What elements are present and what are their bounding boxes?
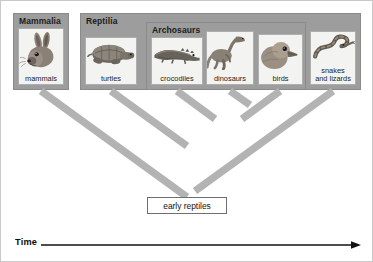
taxon-label-mammals: mammals [19, 75, 63, 84]
branch-dinosaurs [230, 91, 250, 105]
right-arrow-icon [351, 241, 361, 249]
branch-turtles [111, 91, 187, 146]
branch-crocodiles [177, 91, 215, 119]
taxon-label-turtles: turtles [86, 75, 136, 84]
cladogram-diagram: Mammalia Reptilia Archosaurs [0, 0, 373, 262]
branch-mammals [41, 91, 187, 197]
taxon-label-snakes-and-lizards: snakes and lizards [311, 67, 355, 84]
cladogram-branches [1, 1, 373, 262]
taxon-label-birds: birds [259, 75, 302, 84]
ancestor-node-label: early reptiles [147, 197, 227, 214]
time-axis [1, 233, 373, 257]
taxon-label-crocodiles: crocodiles [152, 75, 202, 84]
time-axis-arrow-line [41, 241, 361, 249]
taxon-label-dinosaurs: dinosaurs [207, 75, 253, 84]
